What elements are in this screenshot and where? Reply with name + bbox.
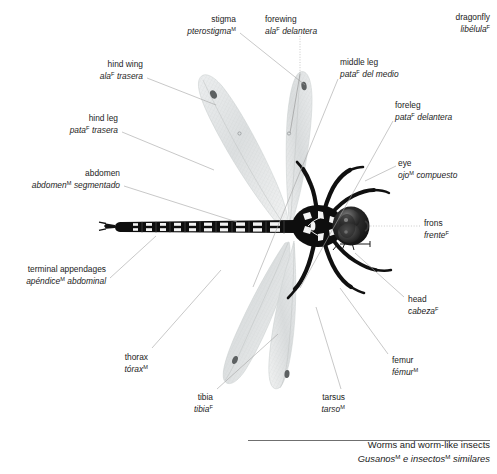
label-frons-es: frenteF — [424, 228, 449, 240]
label-thorax-gender: M — [143, 364, 148, 370]
label-hind-wing-es: alaF trasera — [0, 69, 143, 81]
label-terminal-appendages: terminal appendagesapéndiceM abdominal — [0, 264, 106, 286]
wing-hind-upper-left — [198, 75, 288, 229]
label-terminal-appendages-en: terminal appendages — [0, 264, 106, 274]
label-eye: eyeojoM compuesto — [398, 158, 457, 180]
label-femur-en: femur — [392, 355, 418, 365]
label-thorax-es: tóraxM — [0, 362, 148, 374]
label-forewing-es-tail: delantera — [280, 26, 317, 36]
label-thorax-en: thorax — [0, 352, 148, 362]
footer-en: Worms and worm-like insects — [248, 439, 490, 451]
label-femur-gender: M — [413, 367, 418, 373]
label-femur: femurfémurM — [392, 355, 418, 377]
label-frons: fronsfrenteF — [424, 218, 449, 240]
label-head-en: head — [408, 294, 439, 304]
label-stigma-es: pterostigmaM — [0, 24, 236, 36]
label-hind-wing: hind wingalaF trasera — [0, 59, 143, 81]
label-middle-leg-en: middle leg — [340, 57, 399, 67]
label-femur-es: fémurM — [392, 365, 418, 377]
label-forewing-en: forewing — [265, 14, 317, 24]
label-tarsus-en: tarsus — [0, 392, 345, 402]
label-eye-es: ojoM compuesto — [398, 168, 457, 180]
label-abdomen-es-tail: segmentado — [72, 180, 120, 190]
label-hind-wing-es-tail: trasera — [115, 71, 143, 81]
illustration-page: dragonfly libélulaF stigmapterostigmaMfo… — [0, 0, 497, 474]
label-middle-leg-es: pataF del medio — [340, 67, 399, 79]
label-terminal-appendages-es: apéndiceM abdominal — [0, 274, 106, 286]
label-forewing: forewingalaF delantera — [265, 14, 317, 36]
label-foreleg-en: foreleg — [395, 100, 452, 110]
label-tarsus: tarsustarsoM — [0, 392, 345, 414]
label-stigma-gender: M — [231, 26, 236, 32]
label-hind-leg-en: hind leg — [0, 113, 118, 123]
label-head: headcabezaF — [408, 294, 439, 316]
footer-es: GusanosM e insectosM similares — [248, 451, 490, 465]
label-abdomen: abdomenabdomenM segmentado — [0, 168, 120, 190]
label-eye-es-tail: compuesto — [414, 170, 457, 180]
label-head-gender: F — [435, 306, 439, 312]
label-hind-leg: hind legpataF trasera — [0, 113, 118, 135]
label-stigma: stigmapterostigmaM — [0, 14, 236, 36]
label-foreleg-es-tail: delantera — [415, 112, 452, 122]
label-eye-en: eye — [398, 158, 457, 168]
label-stigma-en: stigma — [0, 14, 236, 24]
label-terminal-appendages-es-tail: abdominal — [65, 276, 106, 286]
label-hind-wing-en: hind wing — [0, 59, 143, 69]
label-foreleg: forelegpataF delantera — [395, 100, 452, 122]
title-es: libélulaF — [456, 22, 490, 34]
title-en: dragonfly — [456, 12, 490, 22]
label-middle-leg-es-tail: del medio — [360, 69, 399, 79]
label-hind-leg-es-tail: trasera — [90, 125, 118, 135]
terminal-appendages — [99, 222, 115, 230]
label-middle-leg: middle legpataF del medio — [340, 57, 399, 79]
wing-fore-upper-right — [286, 72, 312, 229]
label-abdomen-en: abdomen — [0, 168, 120, 178]
label-tarsus-gender: M — [340, 404, 345, 410]
leg-hind-lower — [295, 239, 315, 289]
abdomen — [99, 220, 296, 234]
leg-middle-upper — [324, 170, 350, 211]
footer-caption: Worms and worm-like insects GusanosM e i… — [248, 439, 490, 465]
label-head-es: cabezaF — [408, 304, 439, 316]
label-foreleg-es: pataF delantera — [395, 110, 452, 122]
label-hind-leg-es: pataF trasera — [0, 123, 118, 135]
label-abdomen-es: abdomenM segmentado — [0, 178, 120, 190]
label-tarsus-es: tarsoM — [0, 402, 345, 414]
label-frons-gender: F — [445, 230, 449, 236]
label-frons-en: frons — [424, 218, 449, 228]
label-thorax: thoraxtóraxM — [0, 352, 148, 374]
page-title: dragonfly libélulaF — [456, 12, 490, 34]
label-forewing-es: alaF delantera — [265, 24, 317, 36]
